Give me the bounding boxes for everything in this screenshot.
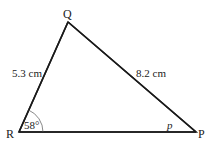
triangle-pqr [19,22,196,132]
side-label-qr: 5.3 cm [12,67,42,79]
vertex-label-r: R [6,127,14,141]
angle-label-p: p [166,119,173,131]
triangle-diagram: Q R P 5.3 cm 8.2 cm 58° p [0,0,210,146]
vertex-label-p: P [198,127,205,141]
angle-label-r: 58° [24,119,39,131]
vertex-label-q: Q [63,7,72,21]
side-label-qp: 8.2 cm [136,67,166,79]
side-qp [68,22,196,132]
